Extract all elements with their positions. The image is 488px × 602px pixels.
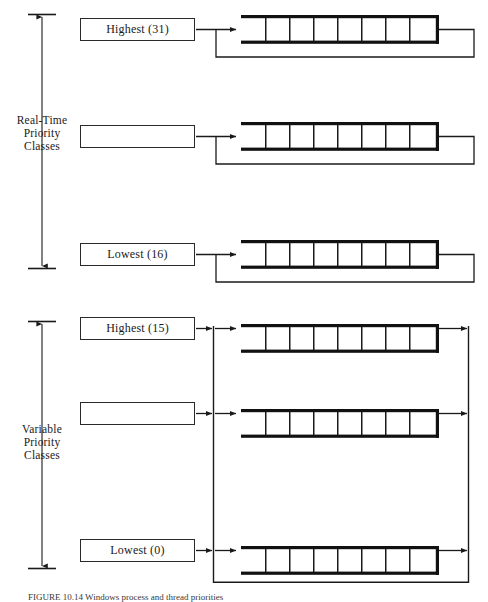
queue-var-middle	[241, 409, 439, 438]
realtime-row-highest	[196, 15, 474, 57]
variable-bus-lines	[213, 326, 469, 583]
variable-group-label-line2: Priority	[6, 436, 78, 449]
variable-group-label-line3: Classes	[6, 449, 78, 462]
realtime-row-middle	[196, 122, 474, 164]
realtime-group-label-line3: Classes	[6, 140, 78, 153]
variable-group-label: Variable Priority Classes	[6, 423, 78, 462]
priority-box-var-highest[interactable]: Highest (15)	[80, 317, 195, 340]
priority-box-rt-highest[interactable]: Highest (31)	[80, 18, 195, 41]
queue-var-lowest	[241, 546, 439, 575]
realtime-group-label: Real-Time Priority Classes	[6, 114, 78, 153]
variable-group-label-line1: Variable	[6, 423, 78, 436]
queue-var-highest	[241, 324, 439, 353]
realtime-group-label-line1: Real-Time	[6, 114, 78, 127]
realtime-row-lowest	[196, 240, 474, 282]
queue-rt-middle	[241, 122, 439, 151]
priority-box-rt-lowest[interactable]: Lowest (16)	[80, 243, 195, 266]
queue-rt-highest	[241, 15, 439, 44]
variable-row-middle	[196, 409, 467, 438]
queue-rt-lowest	[241, 240, 439, 269]
realtime-group-label-line2: Priority	[6, 127, 78, 140]
variable-row-highest	[196, 324, 467, 353]
priority-box-rt-middle[interactable]	[80, 125, 195, 148]
priority-queue-diagram	[0, 0, 488, 602]
variable-row-lowest	[196, 546, 467, 575]
figure-caption: FIGURE 10.14 Windows process and thread …	[28, 592, 223, 602]
priority-box-var-middle[interactable]	[80, 402, 195, 425]
priority-box-var-lowest[interactable]: Lowest (0)	[80, 539, 195, 562]
